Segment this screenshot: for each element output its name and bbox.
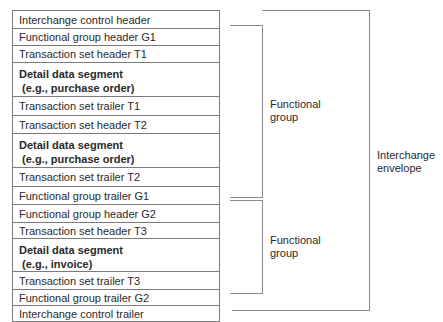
segment-row: Transaction set header T3 xyxy=(13,223,219,239)
envelope-bracket-bottom xyxy=(232,310,370,311)
segment-row: Functional group header G2 xyxy=(13,205,219,223)
segment-row: Functional group header G1 xyxy=(13,29,219,46)
group2-bracket-top xyxy=(230,200,263,201)
segment-row: Functional group trailer G2 xyxy=(13,290,219,306)
detail-segment-row: Detail data segment (e.g., invoice) xyxy=(13,239,219,272)
group1-bracket-side xyxy=(262,25,263,198)
envelope-bracket-top xyxy=(262,10,370,11)
segment-row: Transaction set trailer T3 xyxy=(13,272,219,290)
detail-segment-row: Detail data segment (e.g., purchase orde… xyxy=(13,63,219,97)
segment-table: Interchange control headerFunctional gro… xyxy=(12,10,220,322)
envelope-bracket-side xyxy=(369,10,370,311)
group1-bracket-bottom xyxy=(230,197,263,198)
segment-row: Interchange control trailer xyxy=(13,306,219,322)
envelope-label: Interchange envelope xyxy=(377,149,435,175)
group1-label: Functional group xyxy=(270,98,321,124)
segment-row: Functional group trailer G1 xyxy=(13,187,219,205)
segment-row: Transaction set header T2 xyxy=(13,116,219,134)
group2-bracket-bottom xyxy=(230,293,263,294)
detail-segment-row: Detail data segment (e.g., purchase orde… xyxy=(13,134,219,168)
segment-row: Transaction set trailer T2 xyxy=(13,168,219,187)
group1-bracket-top xyxy=(230,25,263,26)
group2-bracket-side xyxy=(262,200,263,293)
segment-row: Interchange control header xyxy=(13,11,219,29)
segment-row: Transaction set header T1 xyxy=(13,46,219,63)
segment-row: Transaction set trailer T1 xyxy=(13,97,219,116)
group2-label: Functional group xyxy=(270,234,321,260)
